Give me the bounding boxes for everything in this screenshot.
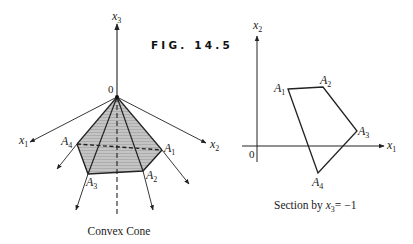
section-vertex-a2-label: A2 [319, 73, 331, 89]
vertex-a3-label: A3 [85, 175, 97, 191]
apex-point [115, 95, 119, 99]
section-vertex-a4-label: A4 [311, 175, 323, 191]
x3-axis-label: x3 [111, 9, 121, 25]
origin-label: 0 [108, 83, 114, 95]
vertex-a1-label: A1 [163, 141, 175, 157]
section-vertex-a1-label: A1 [273, 81, 285, 97]
section-origin-label: 0 [249, 148, 255, 160]
x1-axis-section-label: x1 [386, 138, 396, 154]
x1-axis-label: x1 [18, 133, 28, 149]
ray-a1 [162, 150, 189, 184]
x2-axis-label: x2 [209, 137, 219, 153]
section-polygon [288, 87, 357, 173]
x2-axis-section-label: x2 [252, 18, 262, 34]
left-caption: Convex Cone [88, 225, 151, 237]
figure-canvas: FIG. 14.5 x3 x1 x2 0 A1 [0, 0, 413, 244]
figure-title: FIG. 14.5 [151, 39, 233, 51]
section-vertex-a3-label: A3 [357, 124, 369, 140]
right-caption: Section by x3= −1 [274, 199, 357, 214]
vertex-a4-label: A4 [60, 134, 72, 150]
vertex-a2-label: A2 [145, 168, 157, 184]
section-diagram: x2 x1 0 A1 A2 A3 A4 Section by x3= −1 [242, 18, 396, 214]
